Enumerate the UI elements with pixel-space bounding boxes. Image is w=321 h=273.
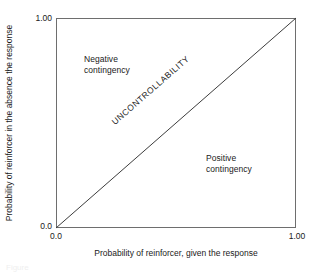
y-axis-tick-min: 0.0 [28, 221, 52, 231]
x-axis-title: Probability of reinforcer, given the res… [56, 248, 296, 258]
figure-caption: Figure [6, 263, 29, 272]
negative-contingency-label: Negative contingency [84, 54, 130, 75]
y-axis-title: Probability of reinforcer in the absence… [4, 25, 14, 222]
y-axis-title-container: Probability of reinforcer in the absence… [0, 18, 18, 228]
uncontrollability-line [56, 18, 296, 228]
x-axis-tick-max: 1.00 [284, 231, 310, 241]
positive-contingency-label: Positive contingency [206, 153, 252, 174]
contingency-space-figure: Negative contingency Positive contingenc… [0, 0, 321, 273]
y-axis-tick-max: 1.00 [28, 13, 52, 23]
x-axis-tick-min: 0.0 [44, 231, 68, 241]
